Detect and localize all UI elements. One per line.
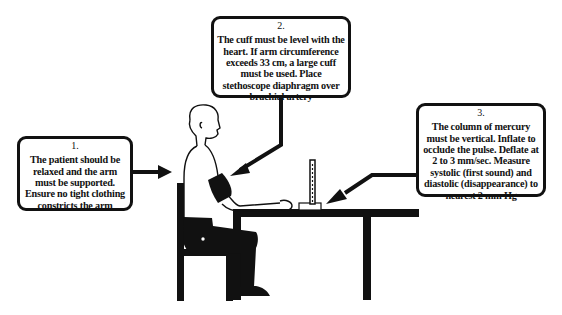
patient-shoe-icon <box>241 286 270 296</box>
callout-3-text: The column of mercury must be vertical. … <box>422 121 540 201</box>
callout-3: 3. The column of mercury must be vertica… <box>416 103 546 197</box>
callout-1-number: 1. <box>23 140 127 151</box>
callout-3-number: 3. <box>422 107 540 118</box>
callout-1-text: The patient should be relaxed and the ar… <box>23 154 127 211</box>
bp-cuff-icon <box>208 173 232 203</box>
arrow-3-icon <box>326 175 416 204</box>
callout-1: 1. The patient should be relaxed and the… <box>17 136 133 211</box>
patient-figure-icon <box>184 105 292 220</box>
callout-2-number: 2. <box>217 20 345 31</box>
patient-trousers-icon <box>183 217 258 287</box>
arrow-1-icon <box>133 165 172 179</box>
mercury-manometer-icon <box>299 160 321 210</box>
arrow-2-icon <box>230 98 281 176</box>
callout-2-text: The cuff must be level with the heart. I… <box>217 34 345 103</box>
callout-2: 2. The cuff must be level with the heart… <box>211 16 351 98</box>
table-icon <box>233 209 419 300</box>
